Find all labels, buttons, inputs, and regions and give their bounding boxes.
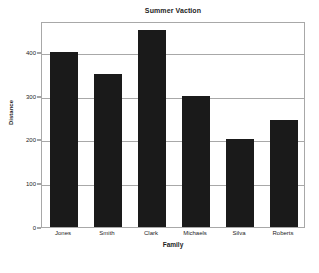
y-tick-label: 200 bbox=[26, 137, 36, 143]
plot-area bbox=[41, 22, 305, 228]
bar bbox=[138, 30, 167, 227]
bar bbox=[94, 74, 123, 227]
y-tick-label: 400 bbox=[26, 50, 36, 56]
x-tick-label: Silva bbox=[232, 230, 245, 236]
bars-layer bbox=[42, 23, 304, 227]
x-tick-label: Smith bbox=[99, 230, 114, 236]
bar bbox=[182, 96, 211, 227]
bar bbox=[226, 139, 255, 227]
chart-title: Summer Vaction bbox=[41, 7, 305, 14]
bar bbox=[270, 120, 299, 227]
y-axis-title: Distance bbox=[8, 100, 14, 125]
y-tick-label: 0 bbox=[33, 225, 36, 231]
x-tick-label: Jones bbox=[55, 230, 71, 236]
x-tick-label: Clark bbox=[144, 230, 158, 236]
y-tick-label: 100 bbox=[26, 181, 36, 187]
bar-chart: Summer Vaction 0100200300400 Distance Jo… bbox=[0, 0, 319, 273]
x-tick-label: Michaels bbox=[183, 230, 207, 236]
bar bbox=[50, 52, 79, 227]
y-axis: 0100200300400 bbox=[0, 22, 41, 228]
y-tick-label: 300 bbox=[26, 94, 36, 100]
x-axis-title: Family bbox=[41, 241, 305, 248]
x-tick-label: Roberts bbox=[272, 230, 293, 236]
